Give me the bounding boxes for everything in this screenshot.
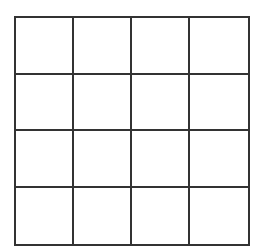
grid-cell-r4-c1: [16, 188, 74, 245]
grid-4x4: [14, 16, 250, 246]
grid-cell-r4-c4: [190, 188, 248, 245]
grid-cell-r3-c4: [190, 131, 248, 188]
grid-cell-r4-c2: [74, 188, 132, 245]
grid-cell-r3-c3: [132, 131, 190, 188]
grid-cell-r1-c1: [16, 18, 74, 75]
grid-cell-r1-c4: [190, 18, 248, 75]
grid-cell-r1-c3: [132, 18, 190, 75]
grid-cell-r2-c4: [190, 75, 248, 132]
grid-cell-r3-c1: [16, 131, 74, 188]
grid-cell-r3-c2: [74, 131, 132, 188]
grid-cell-r2-c3: [132, 75, 190, 132]
grid-cell-r2-c1: [16, 75, 74, 132]
grid-cell-r1-c2: [74, 18, 132, 75]
grid-cell-r4-c3: [132, 188, 190, 245]
grid-cell-r2-c2: [74, 75, 132, 132]
